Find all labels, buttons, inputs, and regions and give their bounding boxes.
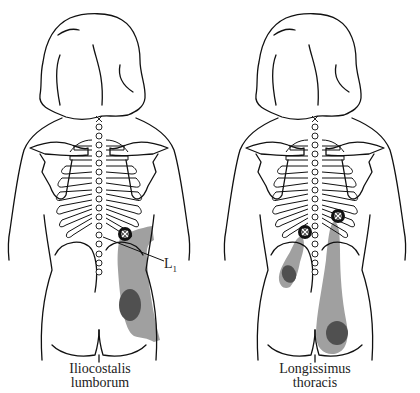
caption-longissimus-thoracis: Longissimus thoracis: [255, 362, 375, 390]
trigger-point-icon: [118, 227, 132, 241]
l1-subscript: 1: [173, 264, 178, 274]
vertebra-label-l1: L1: [164, 256, 177, 274]
referred-pain-zone: [118, 226, 160, 342]
figure-iliocostalis-lumborum: [8, 14, 189, 362]
figure-longissimus-thoracis: [224, 14, 405, 362]
caption-line-2: lumborum: [40, 376, 160, 390]
primary-pain-zone: [119, 289, 141, 321]
trigger-point-icon: [298, 225, 312, 239]
caption-line-1: Longissimus: [255, 362, 375, 376]
caption-line-2: thoracis: [255, 376, 375, 390]
caption-line-1: Iliocostalis: [40, 362, 160, 376]
diagram-canvas: [0, 0, 420, 393]
primary-pain-zone-large: [326, 321, 348, 345]
caption-iliocostalis-lumborum: Iliocostalis lumborum: [40, 362, 160, 390]
trigger-point-icon: [331, 209, 345, 223]
l1-letter: L: [164, 256, 173, 271]
